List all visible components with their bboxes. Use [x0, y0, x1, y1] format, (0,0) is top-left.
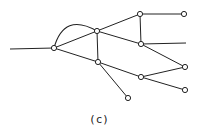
open-edge-A	[10, 48, 54, 49]
node-H	[138, 74, 143, 79]
node-C	[95, 59, 100, 64]
edge-B-C	[97, 31, 98, 62]
node-F	[138, 41, 143, 46]
edge-D-F	[140, 14, 141, 44]
node-I	[182, 87, 187, 92]
edge-B-F	[97, 31, 141, 44]
node-E	[181, 11, 186, 16]
edge-F-G	[141, 44, 185, 67]
node-D	[137, 11, 142, 16]
node-A	[51, 45, 56, 50]
graph-edges	[10, 14, 186, 98]
node-G	[182, 64, 187, 69]
node-B	[94, 28, 99, 33]
edge-H-G	[141, 67, 185, 77]
figure-caption: (c)	[0, 113, 198, 126]
node-J	[125, 95, 130, 100]
open-edge-F	[141, 43, 186, 44]
arc-A-B	[54, 24, 97, 48]
edge-H-I	[141, 77, 185, 90]
edge-A-C	[54, 48, 98, 62]
edge-B-D	[97, 14, 140, 31]
